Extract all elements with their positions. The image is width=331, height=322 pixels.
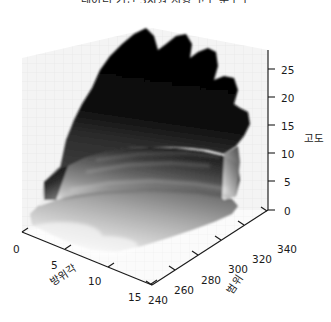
matplotlib-figure: 레이더 기반 3차원 지형 고도 분포도 (0, 0, 331, 322)
x-tick-label: 10 (88, 275, 101, 287)
y-tick-label: 320 (252, 253, 272, 265)
y-tick-label: 340 (277, 243, 297, 255)
z-tick-label: 20 (281, 92, 294, 104)
x-tick-label: 15 (128, 291, 141, 303)
z-tick-label: 0 (284, 205, 291, 217)
y-tick-label: 280 (201, 274, 221, 286)
z-axis-ticks (268, 69, 275, 210)
z-tick-label: 15 (281, 120, 294, 132)
z-tick-label: 10 (281, 148, 294, 160)
y-tick-label: 240 (148, 294, 168, 306)
z-tick-label: 25 (281, 64, 294, 76)
z-axis-label: 고도 (304, 130, 324, 145)
z-tick-label: 5 (284, 176, 291, 188)
x-tick-label: 0 (13, 243, 20, 255)
y-tick-label: 260 (174, 284, 194, 296)
